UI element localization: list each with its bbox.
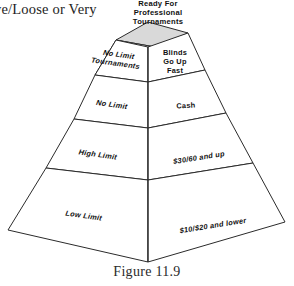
apex-label: Ready For Professional Tournaments [133,0,183,26]
tier-2-right-label-line-1: Cash [176,100,196,110]
tier-2-right-label: Cash [176,100,196,110]
figure-caption: Figure 11.9 [0,264,294,280]
apex-label-line-3: Tournaments [133,17,183,26]
apex-label-line-1: Ready For [138,0,177,8]
apex-label-line-2: Professional [134,8,183,17]
pyramid-diagram: Ready For Professional Tournaments No Li… [0,0,294,286]
tier-1-right-label-line-2: Go Up [163,57,187,66]
tier-4-right-face [148,163,285,262]
tier-1-right-label-line-1: Blinds [163,48,187,57]
tier-1-right-label-line-3: Fast [167,66,183,75]
figure-container: ve/Loose or Very Ready For Professional … [0,0,294,286]
